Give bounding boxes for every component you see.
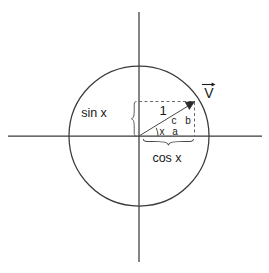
- angle-label: x: [160, 126, 165, 137]
- trig-unit-circle-figure: sin x cos x 1 x a c b V: [0, 0, 269, 273]
- vector-label-group: V: [202, 83, 216, 101]
- radius-length-label: 1: [159, 103, 166, 118]
- sin-label: sin x: [81, 106, 107, 120]
- vector-arrowhead-icon: [185, 102, 194, 110]
- hypotenuse-side-label: c: [172, 115, 177, 126]
- diagram-canvas: sin x cos x 1 x a c b V: [0, 0, 269, 273]
- vector-label: V: [204, 85, 214, 101]
- cos-brace: [143, 139, 193, 145]
- sin-brace: [131, 102, 136, 137]
- adjacent-side-label: a: [172, 126, 178, 137]
- cos-label: cos x: [152, 151, 182, 165]
- opposite-side-label: b: [185, 115, 191, 126]
- angle-arc: [156, 128, 158, 136]
